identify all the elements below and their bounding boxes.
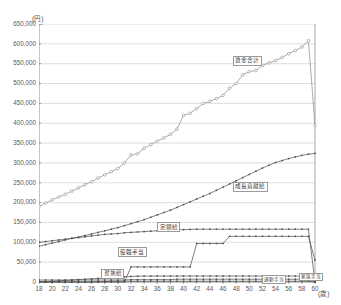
series-label-役職手当: 役職手当 <box>118 247 147 257</box>
wage-structure-chart: (円) (歳) 050,000100,000150,000200,000250,… <box>0 0 341 305</box>
series-label-家族手当: 家族手当 <box>299 273 323 282</box>
x-tick-label: 60 <box>307 286 323 292</box>
y-tick-label: 550,000 <box>0 60 36 66</box>
y-tick-label: 50,000 <box>0 259 36 265</box>
series-label-通勤手当: 通勤手当 <box>262 275 286 284</box>
y-tick-label: 250,000 <box>0 180 36 186</box>
series-label-成長貢献給: 成長貢献給 <box>233 182 268 192</box>
series-label-習熟給: 習熟給 <box>101 269 124 279</box>
y-tick-label: 0 <box>0 279 36 285</box>
series-label-賃金合計: 賃金合計 <box>233 56 262 66</box>
y-tick-label: 200,000 <box>0 199 36 205</box>
plot-area <box>39 24 315 282</box>
y-tick-label: 450,000 <box>0 100 36 106</box>
y-tick-label: 100,000 <box>0 239 36 245</box>
y-tick-label: 350,000 <box>0 140 36 146</box>
series-label-定額給: 定額給 <box>157 222 180 232</box>
y-tick-label: 400,000 <box>0 120 36 126</box>
y-tick-label: 600,000 <box>0 41 36 47</box>
y-tick-label: 650,000 <box>0 21 36 27</box>
y-tick-label: 500,000 <box>0 80 36 86</box>
y-tick-label: 150,000 <box>0 219 36 225</box>
y-tick-label: 300,000 <box>0 160 36 166</box>
